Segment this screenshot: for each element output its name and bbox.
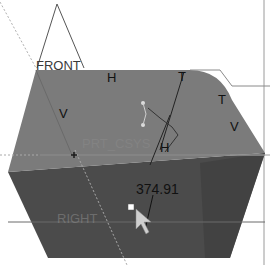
constraint-vertical-left[interactable]: V: [59, 107, 68, 120]
constraint-tangent-top[interactable]: T: [178, 70, 186, 83]
front-face-shade: [200, 153, 265, 258]
front-datum-label[interactable]: FRONT: [36, 59, 81, 72]
model-viewport[interactable]: FRONT H V T T V PRT_CSYS H 374.91 RIGHT: [0, 0, 270, 265]
constraint-horizontal-center[interactable]: H: [160, 141, 169, 154]
datum-axis-line: [0, 2, 36, 68]
constraint-vertical-right[interactable]: V: [230, 120, 239, 133]
right-datum-label[interactable]: RIGHT: [57, 212, 97, 225]
drag-handle[interactable]: [128, 204, 134, 210]
constraint-tangent-right[interactable]: T: [218, 93, 226, 106]
dimension-value[interactable]: 374.91: [136, 182, 179, 196]
constraint-horizontal-top[interactable]: H: [107, 71, 116, 84]
csys-label: PRT_CSYS: [82, 137, 150, 150]
